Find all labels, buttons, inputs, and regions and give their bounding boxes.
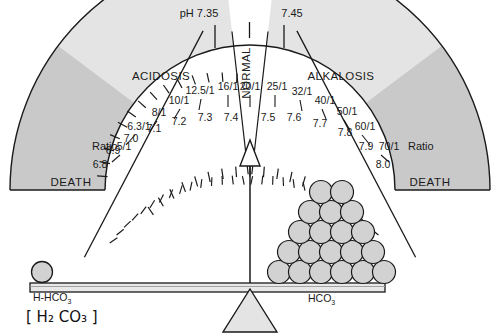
ratio-label: 70/1 (379, 140, 400, 152)
ratio-label: 50/1 (337, 105, 358, 117)
ratio-label: 40/1 (315, 94, 336, 106)
handwritten-h2co3-annotation: [ H₂ CO₃ ] (26, 308, 98, 326)
ph-label: 7.9 (359, 140, 374, 152)
zone-label-alkalosis: ALKALOSIS (308, 70, 375, 82)
molecule-ball (310, 221, 333, 244)
scale-tick-minor (264, 167, 265, 178)
zone-label-death-right: DEATH (409, 176, 450, 188)
zone-label-death-left: DEATH (50, 176, 91, 188)
molecule-ball (362, 241, 385, 264)
ph-label: 7.3 (198, 111, 213, 123)
molecule-ball (310, 181, 333, 204)
molecule-ball (320, 201, 343, 224)
molecule-ball (310, 261, 333, 284)
ph-label: 7.7 (313, 117, 328, 129)
ph-735-label: pH 7.35 (180, 7, 219, 19)
molecule-ball (331, 261, 354, 284)
molecule-ball (352, 221, 375, 244)
ratio-label: 32/1 (292, 85, 313, 97)
ph-label: 6.8 (93, 158, 108, 170)
ph-745-label: 7.45 (281, 7, 302, 19)
ratio-label: 8/1 (152, 106, 167, 118)
ratio-label: 20/1 (240, 80, 261, 92)
left-pan-label: H-HCO3 (33, 291, 71, 305)
ratio-label: 12.5/1 (185, 84, 214, 96)
molecule-ball (373, 261, 396, 284)
right-pan-label: HCO3 (308, 292, 335, 306)
beam-bar (30, 283, 385, 292)
acid-base-balance-diagram: pH 7.35 7.45 ACIDOSIS ALKALOSIS NORMAL D… (0, 0, 501, 336)
ratio-label: 60/1 (355, 120, 376, 132)
ph-label: 7.5 (261, 111, 276, 123)
molecule-ball (278, 241, 301, 264)
balance-beam (30, 283, 385, 292)
molecule-ball (289, 261, 312, 284)
molecule-ball (320, 241, 343, 264)
molecule-ball (299, 201, 322, 224)
acid-molecule-ball (32, 262, 53, 283)
molecule-ball (299, 241, 322, 264)
molecule-ball (341, 241, 364, 264)
molecule-ball (331, 221, 354, 244)
molecule-ball (341, 201, 364, 224)
ph-label: 7.4 (224, 111, 239, 123)
scale-tick-minor (236, 167, 237, 178)
zone-label-acidosis: ACIDOSIS (132, 70, 190, 82)
figure-root: pH 7.35 7.45 ACIDOSIS ALKALOSIS NORMAL D… (0, 0, 501, 336)
molecule-ball (352, 261, 375, 284)
ph-label: 7.8 (338, 126, 353, 138)
molecule-ball (268, 261, 291, 284)
molecule-ball (289, 221, 312, 244)
ph-label: 7.6 (287, 111, 302, 123)
ratio-label: 6.3/1 (127, 120, 151, 132)
ph-label: 7.2 (172, 115, 187, 127)
ph-label: 8.0 (376, 158, 391, 170)
ratio-label: 16/1 (218, 80, 239, 92)
ratio-word-right: Ratio (408, 140, 434, 152)
ratio-label: 25/1 (267, 80, 288, 92)
molecule-ball (331, 181, 354, 204)
